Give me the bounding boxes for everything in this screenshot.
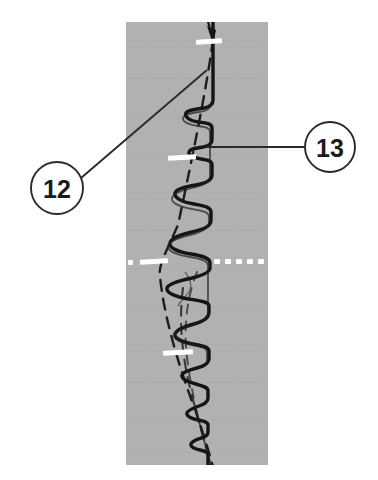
tick-3-left-dot	[128, 260, 133, 265]
recording-strip-texture	[126, 22, 268, 465]
recording-strip	[126, 22, 268, 465]
callout-12-label: 12	[43, 175, 71, 203]
figure-root: 12 13	[0, 0, 378, 480]
figure-canvas: 12 13	[0, 0, 378, 480]
callout-13-label: 13	[316, 134, 344, 162]
